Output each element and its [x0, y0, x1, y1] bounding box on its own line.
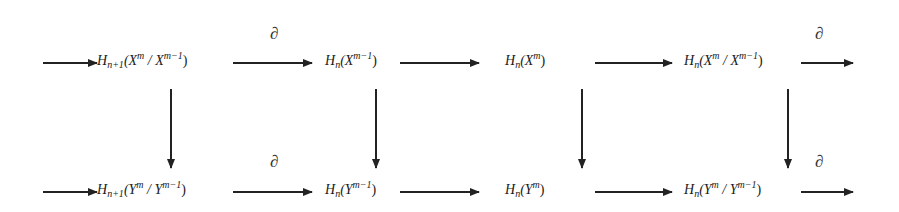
mid: / X [144, 53, 163, 68]
op: H [325, 53, 335, 68]
mid: / Y [144, 182, 163, 197]
sup1: m [533, 50, 540, 61]
arg: (X [340, 53, 353, 68]
sup1: m [136, 179, 143, 190]
arg: (X [699, 53, 712, 68]
arg: (Y [340, 182, 352, 197]
close: ) [372, 182, 377, 197]
node-bottom-1: Hn+1(Ym / Ym−1) [97, 183, 186, 197]
op: H [97, 182, 107, 197]
op: H [97, 53, 107, 68]
sup1: m [712, 179, 719, 190]
arg: (Y [124, 182, 136, 197]
bottom-boundary-label-4: ∂ [815, 153, 823, 170]
close: ) [541, 53, 546, 68]
close: ) [540, 182, 545, 197]
node-bottom-3: Hn(Ym) [505, 183, 544, 197]
mid: / X [720, 53, 739, 68]
arg: (X [520, 53, 533, 68]
arg: (X [124, 53, 137, 68]
close: ) [183, 53, 188, 68]
sub: n+1 [107, 188, 124, 199]
op: H [684, 182, 694, 197]
node-bottom-4: Hn(Ym / Ym−1) [684, 183, 761, 197]
node-top-4: Hn(Xm / Xm−1) [684, 54, 763, 68]
node-top-3: Hn(Xm) [505, 54, 545, 68]
arrows-layer [0, 0, 899, 212]
top-boundary-label-4: ∂ [815, 25, 823, 42]
close: ) [756, 182, 761, 197]
sup1: m−1 [353, 179, 372, 190]
sup2: m−1 [739, 50, 758, 61]
sup2: m−1 [164, 50, 183, 61]
bottom-boundary-label-1: ∂ [270, 153, 278, 170]
sup1: m [533, 179, 540, 190]
op: H [684, 53, 694, 68]
op: H [325, 182, 335, 197]
close: ) [181, 182, 186, 197]
node-top-1: Hn+1(Xm / Xm−1) [97, 54, 187, 68]
arg: (Y [520, 182, 532, 197]
op: H [505, 182, 515, 197]
close: ) [372, 53, 377, 68]
op: H [505, 53, 515, 68]
sup2: m−1 [162, 179, 181, 190]
sub: n+1 [107, 59, 124, 70]
mid: / Y [719, 182, 738, 197]
node-top-2: Hn(Xm−1) [325, 54, 377, 68]
top-boundary-label-1: ∂ [270, 25, 278, 42]
sup1: m [712, 50, 719, 61]
arg: (Y [699, 182, 711, 197]
sup2: m−1 [738, 179, 757, 190]
close: ) [758, 53, 763, 68]
node-bottom-2: Hn(Ym−1) [325, 183, 376, 197]
sup1: m−1 [353, 50, 372, 61]
